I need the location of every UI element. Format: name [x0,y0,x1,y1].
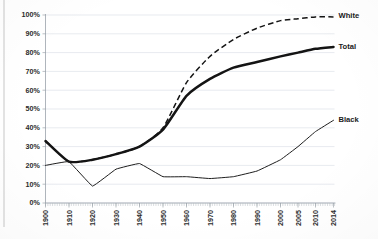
series-lines [46,17,334,186]
series-label-total: Total [339,42,357,51]
y-tick-label: 100% [22,10,41,19]
series-line-white [46,17,334,162]
x-tick-label: 1960 [182,210,191,226]
line-chart: 0%10%20%30%40%50%60%70%80%90%100% 190019… [0,0,378,239]
series-label-black: Black [339,115,360,124]
y-tick-label: 60% [26,86,41,95]
y-tick-label: 30% [26,142,41,151]
y-axis-tick-labels: 0%10%20%30%40%50%60%70%80%90%100% [22,10,41,207]
x-tick-label: 2014 [329,210,338,226]
series-line-black [46,120,334,186]
y-tick-label: 20% [26,161,41,170]
x-tick-label: 2010 [311,210,320,226]
x-axis-tick-labels: 1900191019201930194019501960197019801990… [41,210,338,226]
x-tick-label: 1990 [253,210,262,226]
x-tick-label: 1940 [135,210,144,226]
y-tick-label: 90% [26,29,41,38]
y-tick-label: 70% [26,67,41,76]
x-tick-label: 2000 [276,210,285,226]
y-tick-label: 50% [26,104,41,113]
x-tick-label: 1910 [65,210,74,226]
y-tick-label: 0% [30,198,41,207]
series-labels: WhiteTotalBlack [339,11,360,124]
x-tick-label: 2005 [294,210,303,226]
gridlines [46,15,335,203]
x-tick-label: 1950 [159,210,168,226]
y-tick-label: 40% [26,123,41,132]
chart-canvas: 0%10%20%30%40%50%60%70%80%90%100% 190019… [0,0,378,239]
x-tick-label: 1920 [88,210,97,226]
x-tick-label: 1900 [41,210,50,226]
series-line-total [46,47,334,162]
y-tick-label: 10% [26,180,41,189]
x-tick-label: 1970 [206,210,215,226]
x-axis [46,203,336,208]
y-tick-label: 80% [26,48,41,57]
series-label-white: White [339,11,360,20]
x-tick-label: 1930 [112,210,121,226]
y-axis [43,14,46,203]
x-tick-label: 1980 [229,210,238,226]
